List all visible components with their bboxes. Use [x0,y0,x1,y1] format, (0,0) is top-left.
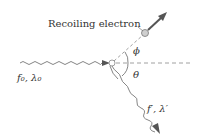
recoiling-electron-label: Recoiling electron [48,19,141,29]
theta-label: θ [133,70,139,80]
incident-photon-label: f₀, λ₀ [17,73,41,83]
scattered-arrow-head [152,123,160,134]
scattered-photon-label: f′, λ′ [147,104,168,114]
phi-arc [125,52,128,63]
phi-label: ϕ [133,46,140,56]
theta-arc-outer [110,66,118,79]
incident-photon-wave [20,62,102,65]
theta-arc [122,63,128,76]
electron-arrow [148,18,161,30]
